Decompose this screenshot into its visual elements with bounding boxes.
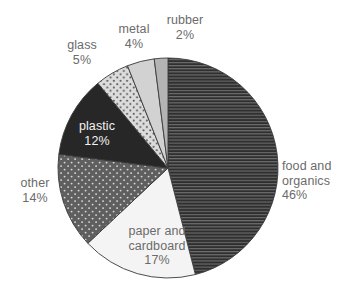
slice-label-line2: cardboard	[110, 239, 204, 254]
slice-value: 14%	[8, 191, 62, 206]
slice-label-other: other 14%	[8, 176, 62, 205]
slice-label-line1: plastic	[62, 119, 132, 134]
slice-label-food-and-organics: food and organics 46%	[282, 159, 331, 203]
slice-label-line1: other	[8, 176, 62, 191]
slice-value: 12%	[62, 134, 132, 149]
slice-label-plastic: plastic 12%	[62, 119, 132, 148]
pie-chart: food and organics 46% paper and cardboar…	[0, 0, 350, 299]
slice-value: 2%	[156, 28, 214, 43]
slice-label-metal: metal 4%	[108, 22, 160, 51]
slice-value: 46%	[282, 188, 331, 203]
slice-label-paper-and-cardboard: paper and cardboard 17%	[110, 224, 204, 268]
slice-label-line2: organics	[282, 174, 331, 189]
slice-label-line1: paper and	[110, 224, 204, 239]
slice-value: 4%	[108, 37, 160, 52]
slice-value: 17%	[110, 253, 204, 268]
slice-label-line1: glass	[56, 38, 108, 53]
slice-label-line1: metal	[108, 22, 160, 37]
slice-value: 5%	[56, 53, 108, 68]
slice-label-line1: rubber	[156, 13, 214, 28]
slice-label-rubber: rubber 2%	[156, 13, 214, 42]
slice-label-glass: glass 5%	[56, 38, 108, 67]
slice-label-line1: food and	[282, 159, 331, 174]
